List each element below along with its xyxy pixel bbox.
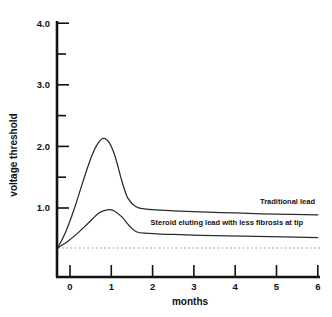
y-tick-label: 4.0 (37, 18, 50, 29)
y-tick-label: 3.0 (37, 79, 50, 90)
chart-figure: 1.02.03.04.0 0123456 Traditional leadSte… (0, 0, 332, 317)
chart-background (0, 0, 332, 317)
x-tick-label: 3 (191, 281, 196, 292)
x-tick-label: 4 (233, 281, 239, 292)
x-axis-title: months (172, 296, 209, 307)
y-axis-title: voltage threshold (8, 113, 19, 196)
x-tick-label: 2 (150, 281, 155, 292)
x-tick-label: 1 (109, 281, 115, 292)
series-label-1: Steroid eluting lead with less fibrosis … (151, 218, 304, 227)
y-tick-label: 2.0 (37, 141, 50, 152)
series-label-0: Traditional lead (260, 197, 315, 206)
chart-canvas: 1.02.03.04.0 0123456 Traditional leadSte… (0, 0, 332, 317)
x-tick-label: 6 (315, 281, 320, 292)
y-tick-label: 1.0 (37, 202, 50, 213)
x-tick-label: 5 (274, 281, 280, 292)
x-tick-label: 0 (67, 281, 72, 292)
